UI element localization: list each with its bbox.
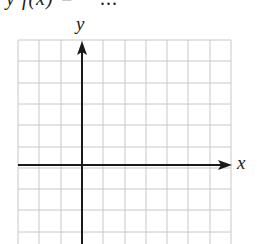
y-axis — [77, 41, 87, 244]
y-axis-label: y — [76, 13, 84, 35]
coordinate-grid — [0, 0, 257, 244]
grid-lines — [18, 40, 231, 244]
x-axis-label: x — [237, 152, 245, 174]
